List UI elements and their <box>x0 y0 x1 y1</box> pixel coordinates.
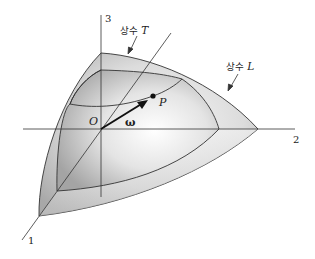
label-constant-l-var: L <box>247 60 254 72</box>
label-constant-t-ko: 상수 <box>120 25 138 36</box>
label-constant-l-ko: 상수 <box>226 61 244 72</box>
label-constant-l: 상수 L <box>226 61 254 72</box>
point-p-label: P <box>159 97 166 108</box>
omega-label: ω <box>125 117 135 128</box>
label-constant-t: 상수 T <box>120 25 148 36</box>
axis-2-label: 2 <box>293 135 299 145</box>
axis-3-label: 3 <box>105 14 111 24</box>
axis-1-label: 1 <box>28 236 34 246</box>
energy-momentum-ellipsoid-diagram <box>0 0 315 259</box>
origin-label: O <box>89 116 98 127</box>
point-p-dot <box>150 93 155 98</box>
label-constant-t-var: T <box>141 24 148 36</box>
